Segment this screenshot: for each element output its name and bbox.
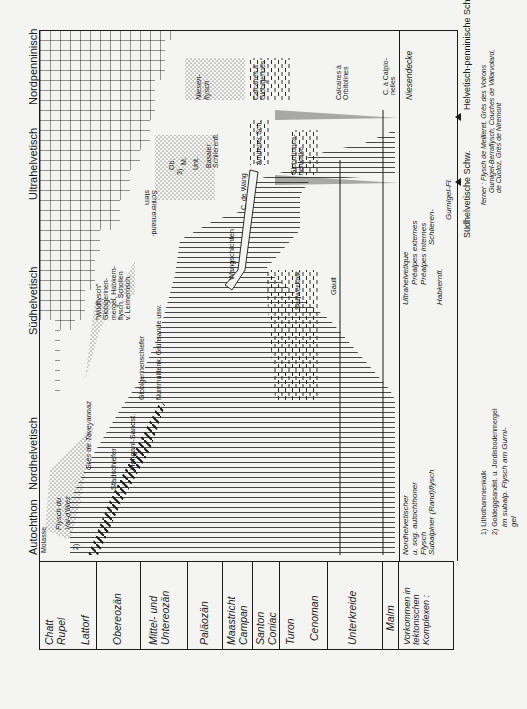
label-schlierenfl: Schlierenfl.: [212, 133, 219, 168]
ferner-line-2: Gurnigel-Berraflysch, Couches de Villarv…: [488, 50, 496, 205]
label-nummulitenk: Nummulitenk. Grünsande usw.: [155, 305, 163, 400]
label-suedhelvetische-schw: Südhelvetische Schw.: [462, 150, 472, 238]
label-calcaires-a: Calcaires à: [252, 61, 259, 100]
label-leimernsch: v. Leimernsch.: [124, 266, 131, 320]
label-val-illiez: Val-d'Illiez: [64, 496, 73, 530]
arrow-marker-icon: [455, 113, 461, 121]
label-stadschiefer: Stadschiefer: [110, 448, 119, 490]
ferner-line-1: ferner : Flysch de Meilleret, Grès des V…: [480, 50, 488, 205]
footnote-1: 1) Lithothamnienkalk: [480, 409, 488, 535]
label-ob: Ob.: [168, 159, 176, 170]
label-gres-taveyannaz: Grès de Taveyannaz: [85, 401, 94, 470]
label-globotrunca: Globotrunca-: [290, 135, 297, 175]
label-globigerines: Globigerines: [259, 61, 266, 100]
label-wangschichten: Wangschichten: [228, 229, 237, 280]
label-gault: Gault: [330, 277, 339, 295]
label-nenkalke: nenkalke: [297, 135, 304, 175]
label-helvetisch-penninische-schw: Helvetisch-penninische Schw.: [462, 0, 472, 110]
label-c-a-calpio: C. à Calpio-: [382, 58, 389, 95]
label-basaler: Basaler: [205, 133, 212, 168]
label-m: M.: [180, 157, 188, 165]
label-nelles: nelles: [389, 58, 396, 95]
footnote-2-marker: 2): [72, 544, 80, 550]
label-mergel-habkern: mergel, Habkern-: [110, 266, 117, 320]
label-globigerinen: Globigerinen-: [102, 266, 109, 320]
label-wildflysch: "Wildflysch": [95, 266, 102, 320]
label-globigerinenschiefer: Globigerinenschiefer: [138, 336, 146, 400]
label-orbitolines: Orbitolines: [342, 65, 349, 100]
footnote-2: 2) Goldeggsandst. u. Jordisbodenmergel: [491, 409, 499, 535]
label-stein: stein: [143, 190, 150, 237]
footnote-3-marker: 3): [176, 169, 184, 175]
ferner-line-3: de Cucloz, Grès de Niremont: [495, 50, 503, 205]
label-seewerkalk: Seewerkalk: [294, 271, 303, 310]
label-amdener-sch: Amdener Sch.: [255, 121, 263, 165]
vorkommen-gurnigel-fl: Gurnigel-Fl.: [444, 178, 453, 220]
label-schlierensand: Schlierensand-: [151, 190, 158, 237]
arrow-marker-icon: [455, 178, 461, 186]
label-c-de-wang: C. de Wang: [240, 173, 248, 210]
label-unt: Unt.: [192, 157, 200, 170]
label-molasse: Molasse: [40, 527, 48, 553]
diagram-art: [0, 0, 527, 709]
vorkommen-niesendecke: Niesendecke: [405, 51, 415, 100]
label-flysch: flysch: [203, 74, 211, 100]
label-flysch-schollen: flysch, Schollen: [117, 266, 124, 320]
footnote-2-cont: im subalp. Flysch am Gurni-: [500, 409, 510, 535]
vorkommen-habkernfl: Habkernfl.: [435, 269, 444, 305]
vorkommen-subalpiner: Subalpiner (Rand)flysch: [428, 470, 437, 555]
label-hohgant-sandst: Hohgant-Sandst.: [129, 414, 138, 470]
label-calcaires-a-2: Calcaires à: [335, 65, 342, 100]
footnote-2-end: gel: [509, 409, 519, 535]
